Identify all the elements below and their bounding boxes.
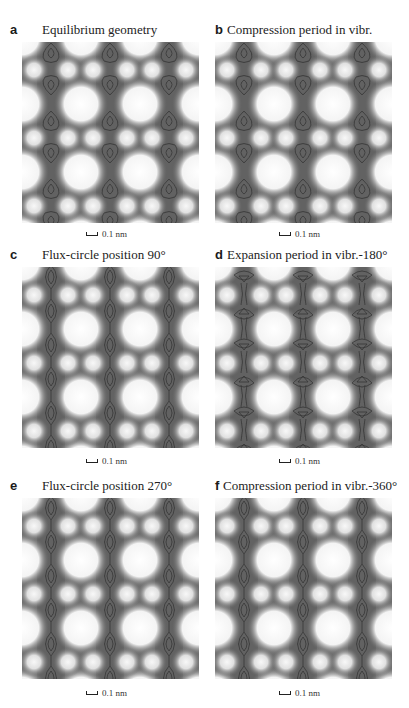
scale-bar: 0.1 nm	[279, 229, 320, 239]
panel-letter: a	[10, 22, 17, 37]
charge-density-map	[22, 42, 199, 223]
panel-letter: e	[10, 478, 17, 493]
scale-label: 0.1 nm	[102, 688, 127, 698]
scale-label: 0.1 nm	[295, 456, 320, 466]
charge-density-map	[215, 498, 392, 679]
scale-bar-icon	[86, 691, 98, 695]
panel-letter: f	[215, 478, 219, 493]
scale-bar-icon	[86, 459, 98, 463]
scale-label: 0.1 nm	[295, 688, 320, 698]
panel-letter: b	[215, 22, 223, 37]
panel-title: Equilibrium geometry	[42, 22, 157, 38]
scale-bar-icon	[279, 691, 291, 695]
scale-bar-icon	[279, 232, 291, 236]
scale-bar-icon	[279, 459, 291, 463]
panel-title: Flux-circle position 90°	[42, 247, 166, 263]
charge-density-map	[215, 267, 392, 448]
panel-letter: d	[215, 247, 223, 262]
scale-label: 0.1 nm	[102, 456, 127, 466]
scale-label: 0.1 nm	[102, 229, 127, 239]
charge-density-map	[22, 267, 199, 448]
panel-letter: c	[10, 247, 17, 262]
scale-bar: 0.1 nm	[279, 688, 320, 698]
scale-bar: 0.1 nm	[86, 688, 127, 698]
charge-density-map	[22, 498, 199, 679]
panel-title: Expansion period in vibr.-180°	[227, 247, 387, 263]
panel-title: Flux-circle position 270°	[42, 478, 172, 494]
scale-bar: 0.1 nm	[86, 456, 127, 466]
charge-density-map	[215, 42, 392, 223]
scale-bar-icon	[86, 232, 98, 236]
scale-bar: 0.1 nm	[279, 456, 320, 466]
panel-title: Compression period in vibr.	[227, 22, 372, 38]
panel-title: Compression period in vibr.-360°	[223, 478, 397, 494]
scale-label: 0.1 nm	[295, 229, 320, 239]
scale-bar: 0.1 nm	[86, 229, 127, 239]
